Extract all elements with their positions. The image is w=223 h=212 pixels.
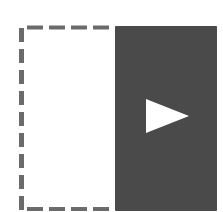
dashed-placeholder-panel — [22, 28, 116, 212]
panel-toggle-icon — [0, 0, 223, 211]
expand-panel-icon — [0, 0, 223, 211]
